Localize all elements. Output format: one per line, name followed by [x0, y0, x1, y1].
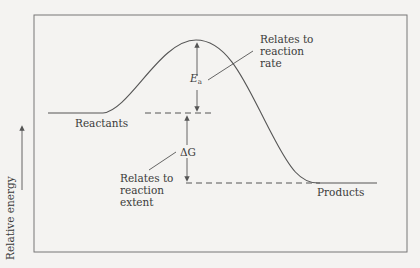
- dg-leader-line: [149, 152, 176, 170]
- energy-curve: [48, 40, 377, 183]
- ea-note-line: Relates to: [260, 33, 313, 45]
- energy-diagram-canvas: [0, 0, 420, 268]
- dg-note-line: reaction: [120, 184, 173, 196]
- ea-note-line: reaction: [260, 45, 313, 57]
- ea-note-line: rate: [260, 57, 313, 69]
- ea-note: Relates to reaction rate: [260, 33, 313, 69]
- dg-note: Relates to reaction extent: [120, 172, 173, 208]
- y-axis-label: Relative energy: [4, 176, 16, 260]
- ea-symbol: E: [190, 72, 198, 84]
- ea-leader-line: [208, 51, 253, 80]
- ea-subscript: a: [198, 78, 202, 86]
- dg-note-line: extent: [120, 196, 173, 208]
- reactants-label: Reactants: [75, 117, 128, 129]
- dg-label: ΔG: [180, 146, 196, 158]
- dg-note-line: Relates to: [120, 172, 173, 184]
- products-label: Products: [317, 186, 364, 198]
- ea-label: Ea: [190, 72, 202, 88]
- plot-frame: [34, 15, 407, 252]
